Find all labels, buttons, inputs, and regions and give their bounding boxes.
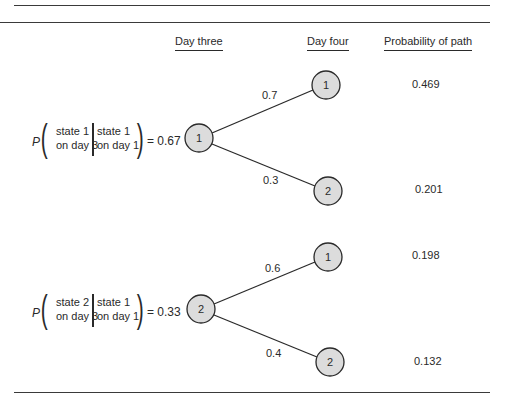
given-line-1: state 1	[97, 124, 139, 138]
path-probability-2: 0.201	[415, 183, 443, 196]
given-description: state 1 on day 1	[97, 295, 139, 323]
probability-symbol: P	[32, 306, 40, 320]
conditional-probability-formula-1: P ( state 1 on day 3 state 1 on day 1 ) …	[32, 122, 192, 162]
edge-label-0.6: 0.6	[265, 262, 280, 275]
edge-label-0.4: 0.4	[266, 347, 281, 360]
given-description: state 1 on day 1	[97, 124, 139, 152]
right-paren: )	[137, 287, 144, 331]
node-label-day4-2a: 2	[325, 185, 331, 198]
edge-label-0.7: 0.7	[262, 89, 277, 102]
right-paren: )	[137, 116, 144, 160]
given-line-2: on day 1	[97, 309, 139, 323]
path-probability-1: 0.469	[412, 78, 440, 91]
left-paren: (	[41, 116, 48, 160]
given-line-1: state 1	[97, 295, 139, 309]
given-bar	[92, 123, 94, 156]
node-label-day4-1a: 1	[323, 79, 329, 92]
probability-symbol: P	[32, 135, 40, 149]
probability-tree	[0, 0, 505, 415]
given-bar	[92, 294, 94, 327]
node-label-day4-2b: 2	[327, 356, 333, 369]
path-probability-3: 0.198	[412, 249, 440, 262]
probability-value: = 0.33	[147, 305, 181, 319]
probability-value: = 0.67	[147, 134, 181, 148]
node-label-day4-1b: 1	[325, 251, 331, 264]
node-label-day3-2: 2	[198, 303, 204, 316]
edge-label-0.3: 0.3	[263, 174, 278, 187]
path-probability-4: 0.132	[414, 355, 442, 368]
node-label-day3-1: 1	[196, 132, 202, 145]
given-line-2: on day 1	[97, 138, 139, 152]
conditional-probability-formula-2: P ( state 2 on day 3 state 1 on day 1 ) …	[32, 293, 192, 333]
tree-edges	[212, 90, 317, 357]
left-paren: (	[41, 287, 48, 331]
tree-nodes	[185, 71, 344, 376]
